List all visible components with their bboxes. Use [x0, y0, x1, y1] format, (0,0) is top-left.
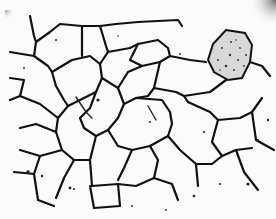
shaded-corner [5, 10, 25, 30]
micrograph [0, 0, 276, 219]
grain-structure [0, 0, 276, 219]
